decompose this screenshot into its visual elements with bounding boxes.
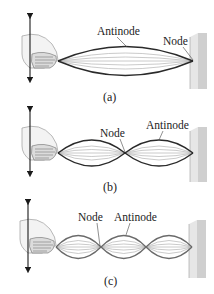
caption-c: (c) bbox=[104, 274, 117, 288]
caption-b: (b) bbox=[103, 180, 117, 194]
label-node: Node bbox=[100, 127, 125, 139]
standing-wave-figure: Antinode Node (a) Node bbox=[0, 0, 214, 294]
wall-icon bbox=[189, 220, 206, 278]
panel-a: Antinode Node (a) bbox=[22, 16, 207, 104]
string-ghost-lines bbox=[56, 241, 192, 254]
wall-icon bbox=[190, 127, 207, 182]
label-antinode: Antinode bbox=[146, 119, 189, 131]
panel-b: Node Antinode (b) bbox=[22, 109, 207, 194]
label-antinode: Antinode bbox=[114, 211, 157, 223]
label-node: Node bbox=[163, 35, 188, 47]
label-node: Node bbox=[78, 211, 103, 223]
label-antinode: Antinode bbox=[97, 25, 140, 37]
hand-icon bbox=[22, 126, 58, 160]
string-ghost-lines bbox=[58, 53, 193, 69]
hand-icon bbox=[20, 219, 56, 253]
panel-c: Node Antinode (c) bbox=[20, 202, 206, 288]
caption-a: (a) bbox=[103, 90, 116, 104]
hand-icon bbox=[22, 34, 58, 68]
